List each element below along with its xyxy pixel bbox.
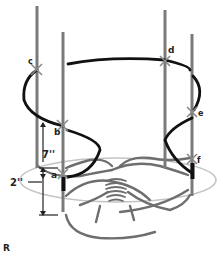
label-point-e: e [198,109,204,118]
label-point-d: d [168,45,174,55]
label-point-a: a [51,170,57,180]
label-dim-2in: 2'' [10,177,23,188]
label-point-b: b [54,127,61,137]
label-dim-7in: 7'' [42,149,55,160]
diagram-canvas: c b a d e f 7'' 2'' R [0,0,219,253]
label-point-c: c [28,57,33,66]
label-point-f: f [197,156,201,165]
figure-label: R [3,243,10,253]
stake-base-left [62,177,66,191]
center-coil [106,179,126,201]
